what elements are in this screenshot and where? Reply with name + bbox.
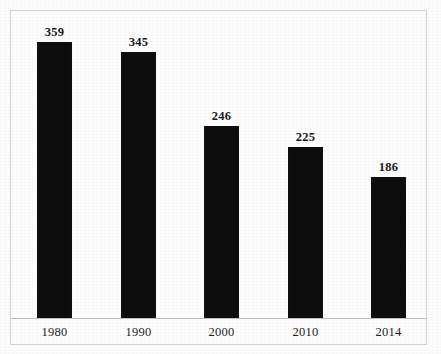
- bar-value-2000: 246: [194, 109, 249, 124]
- bar-chart-figure: 359 1980 345 1990 246 2000 225 2010 186 …: [0, 0, 441, 354]
- tick-label-2000: 2000: [194, 325, 249, 340]
- tick-label-2014: 2014: [361, 325, 416, 340]
- bar-1980[interactable]: [37, 42, 72, 318]
- tick-label-1980: 1980: [27, 325, 82, 340]
- bar-value-2014: 186: [361, 160, 416, 175]
- bar-value-1980: 359: [27, 25, 82, 40]
- tick-label-1990: 1990: [111, 325, 166, 340]
- bar-value-1990: 345: [111, 35, 166, 50]
- bar-value-2010: 225: [278, 130, 333, 145]
- tick-label-2010: 2010: [278, 325, 333, 340]
- bar-2000[interactable]: [204, 126, 239, 318]
- bar-2010[interactable]: [288, 147, 323, 318]
- bar-1990[interactable]: [121, 52, 156, 318]
- category-axis-line: [11, 318, 427, 319]
- bar-2014[interactable]: [371, 177, 406, 318]
